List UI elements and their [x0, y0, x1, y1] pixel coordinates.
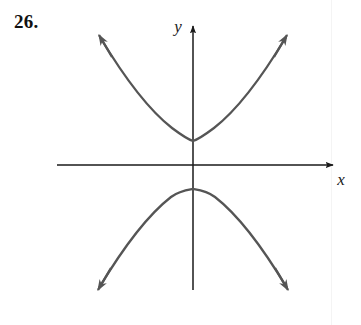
hyperbola-plot: y x: [0, 0, 361, 325]
y-axis-label: y: [172, 17, 182, 36]
upper-right-arrow-icon: [274, 35, 287, 57]
figure-container: 26. y x: [0, 0, 361, 325]
x-axis-label: x: [336, 170, 345, 189]
lower-right-arrow-icon: [275, 268, 288, 290]
lower-left-arrow-icon: [98, 268, 111, 290]
upper-left-arrow-icon: [99, 35, 112, 57]
